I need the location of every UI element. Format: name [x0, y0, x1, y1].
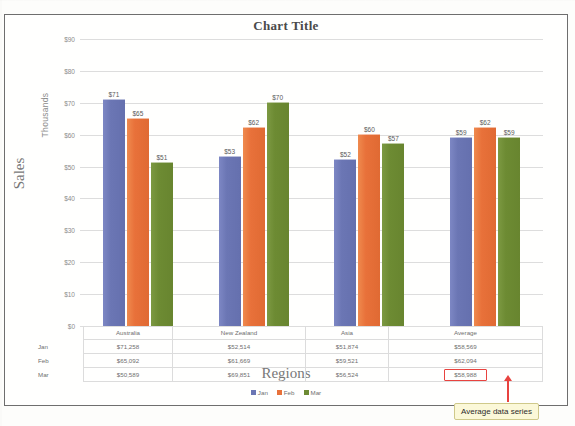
bar-data-label: $59: [504, 129, 515, 136]
table-column-header: Asia: [306, 326, 389, 340]
y-axis-tick-label: $90: [64, 36, 75, 43]
bar-wrapper: $59: [450, 39, 472, 326]
annotation-callout: Average data series: [454, 403, 539, 420]
table-cell: $50,589: [84, 368, 173, 382]
bar-feb-new-zealand[interactable]: $62: [243, 127, 265, 326]
y-axis-tick-label: $30: [64, 227, 75, 234]
table-cell: $58,988: [388, 368, 542, 382]
legend-item-feb[interactable]: Feb: [277, 389, 295, 396]
bar-data-label: $53: [224, 148, 235, 155]
table-cell: $62,094: [388, 354, 542, 368]
plot-area: $90$80$70$60$50$40$30$20$10$0$71$65$51$5…: [80, 39, 543, 326]
y-axis-title: Sales: [11, 129, 28, 219]
annotation-arrow-icon: [507, 380, 509, 402]
legend-swatch-icon: [277, 390, 282, 395]
bar-data-label: $52: [340, 151, 351, 158]
bar-feb-australia[interactable]: $65: [127, 118, 149, 326]
bar-data-label: $57: [388, 135, 399, 142]
chart-data-table[interactable]: AustraliaNew ZealandAsiaAverageJan$71,25…: [35, 326, 543, 382]
bar-jan-average[interactable]: $59: [450, 137, 472, 326]
bar-wrapper: $53: [219, 39, 241, 326]
table-row-header: Feb: [35, 354, 84, 368]
table-cell: $61,669: [173, 354, 306, 368]
table-cell: $56,524: [306, 368, 389, 382]
bar-mar-asia[interactable]: $57: [382, 143, 404, 326]
bar-mar-average[interactable]: $59: [498, 137, 520, 326]
chart-container[interactable]: Chart Title Sales Thousands Regions $90$…: [4, 14, 568, 406]
table-row: Feb$65,092$61,669$59,521$62,094: [35, 354, 543, 368]
bar-data-label: $62: [248, 119, 259, 126]
bar-group-new-zealand: $53$62$70: [196, 39, 312, 326]
y-axis-tick-label: $50: [64, 163, 75, 170]
legend-label: Jan: [258, 389, 268, 396]
bar-jan-australia[interactable]: $71: [103, 99, 125, 326]
bar-data-label: $51: [156, 154, 167, 161]
table-column-header: New Zealand: [173, 326, 306, 340]
legend-swatch-icon: [304, 390, 309, 395]
legend-item-mar[interactable]: Mar: [304, 389, 322, 396]
bar-wrapper: $70: [267, 39, 289, 326]
bar-wrapper: $59: [498, 39, 520, 326]
y-axis-tick-label: $80: [64, 67, 75, 74]
bar-mar-new-zealand[interactable]: $70: [267, 102, 289, 326]
table-column-header: Average: [388, 326, 542, 340]
bar-wrapper: $71: [103, 39, 125, 326]
table-column-header: Australia: [84, 326, 173, 340]
legend-swatch-icon: [251, 390, 256, 395]
bar-data-label: $71: [108, 91, 119, 98]
y-axis-tick-label: $60: [64, 131, 75, 138]
table-cell: $71,258: [84, 340, 173, 354]
bar-data-label: $60: [364, 126, 375, 133]
y-axis-unit-label: Thousands: [40, 80, 50, 150]
bar-group-asia: $52$60$57: [312, 39, 428, 326]
bar-feb-average[interactable]: $62: [474, 127, 496, 326]
y-axis-tick-label: $20: [64, 259, 75, 266]
bar-group-australia: $71$65$51: [80, 39, 196, 326]
chart-legend[interactable]: JanFebMar: [5, 389, 567, 396]
table-corner-cell: [35, 326, 84, 340]
y-axis-tick-label: $40: [64, 195, 75, 202]
bar-wrapper: $62: [474, 39, 496, 326]
bar-data-label: $65: [132, 110, 143, 117]
bar-feb-asia[interactable]: $60: [358, 134, 380, 326]
table-row: Jan$71,258$52,514$51,874$58,569: [35, 340, 543, 354]
bar-jan-new-zealand[interactable]: $53: [219, 156, 241, 326]
legend-item-jan[interactable]: Jan: [251, 389, 268, 396]
legend-label: Feb: [284, 389, 295, 396]
bar-wrapper: $51: [151, 39, 173, 326]
bar-data-label: $59: [456, 129, 467, 136]
bar-jan-asia[interactable]: $52: [334, 159, 356, 326]
bar-wrapper: $62: [243, 39, 265, 326]
chart-title: Chart Title: [5, 18, 567, 34]
bar-group-average: $59$62$59: [427, 39, 543, 326]
table-cell: $58,569: [388, 340, 542, 354]
table-row-header: Mar: [35, 368, 84, 382]
bar-wrapper: $52: [334, 39, 356, 326]
bar-wrapper: $60: [358, 39, 380, 326]
table-cell: $51,874: [306, 340, 389, 354]
y-axis-tick-label: $10: [64, 291, 75, 298]
table-cell: $59,521: [306, 354, 389, 368]
table-cell: $65,092: [84, 354, 173, 368]
table-row-header: Jan: [35, 340, 84, 354]
bar-data-label: $62: [480, 119, 491, 126]
legend-label: Mar: [311, 389, 322, 396]
y-axis-tick-label: $70: [64, 99, 75, 106]
table-cell: $52,514: [173, 340, 306, 354]
bar-mar-australia[interactable]: $51: [151, 162, 173, 326]
bar-wrapper: $65: [127, 39, 149, 326]
table-cell: $69,851: [173, 368, 306, 382]
table-row: Mar$50,589$69,851$56,524$58,988: [35, 368, 543, 382]
bar-wrapper: $57: [382, 39, 404, 326]
bar-data-label: $70: [272, 94, 283, 101]
highlighted-cell: $58,988: [444, 369, 486, 381]
